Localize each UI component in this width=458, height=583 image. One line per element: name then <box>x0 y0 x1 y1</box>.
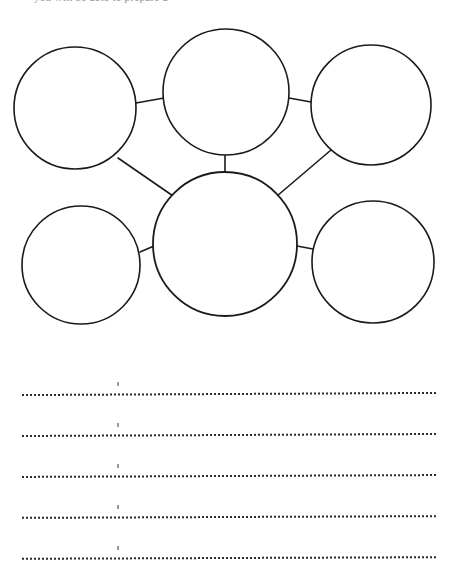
answer-line-2[interactable] <box>22 431 436 437</box>
bubble-center-hub[interactable] <box>153 172 297 316</box>
bubble-map-canvas <box>0 14 458 344</box>
answer-line-3[interactable] <box>22 472 436 478</box>
connector-center-hub-to-bottom-right <box>297 246 313 249</box>
answer-lines-section <box>0 366 458 583</box>
line-tick-1 <box>117 382 119 386</box>
bubble-top-left[interactable] <box>14 47 136 169</box>
clipped-header-text: you will be able to prepare a <box>0 0 458 9</box>
bubble-bottom-left[interactable] <box>22 206 140 324</box>
answer-line-5[interactable] <box>22 554 436 560</box>
bubble-bottom-right[interactable] <box>312 201 434 323</box>
worksheet-page: you will be able to prepare a <box>0 0 458 583</box>
bubble-group <box>14 29 434 324</box>
connector-top-center-to-top-right <box>289 98 311 102</box>
bubble-map-diagram <box>0 14 458 344</box>
line-tick-3 <box>117 464 119 468</box>
bubble-top-right[interactable] <box>311 45 431 165</box>
clipped-header-text-label: you will be able to prepare a <box>34 0 168 3</box>
connector-bottom-left-to-center-hub <box>140 246 154 252</box>
bubble-top-center[interactable] <box>163 29 289 155</box>
connector-top-left-to-center-hub <box>118 158 176 198</box>
line-tick-2 <box>117 423 119 427</box>
connector-top-right-to-center-hub <box>277 150 331 196</box>
answer-line-1[interactable] <box>22 390 436 396</box>
answer-line-4[interactable] <box>22 513 436 519</box>
connector-top-left-to-top-center <box>136 98 164 103</box>
line-tick-5 <box>117 546 119 550</box>
line-tick-4 <box>117 505 119 509</box>
